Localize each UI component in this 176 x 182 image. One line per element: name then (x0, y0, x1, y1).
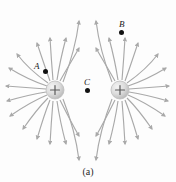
positive-charge-left (46, 81, 64, 99)
point-marker-c (85, 88, 90, 93)
field-lines-right-charge (96, 38, 169, 144)
physics-figure: A B C (a) (0, 0, 176, 182)
point-label-b: B (119, 20, 125, 29)
point-label-a: A (34, 62, 40, 71)
point-label-c: C (84, 78, 90, 87)
field-lines-left-charge (6, 38, 79, 144)
point-marker-b (119, 30, 124, 35)
figure-caption: (a) (0, 166, 176, 177)
positive-charge-right (111, 81, 129, 99)
point-marker-a (43, 69, 48, 74)
